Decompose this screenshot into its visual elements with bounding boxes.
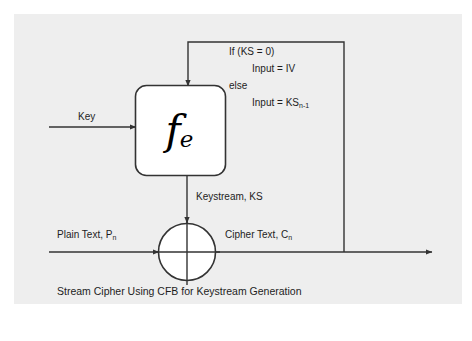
keystream-label: Keystream, KS: [196, 191, 263, 203]
condition-if-line: If (KS = 0): [229, 46, 274, 58]
figure-root: fe Key Keystream, KS Plain Text, Pn Ciph…: [0, 0, 472, 341]
function-subscript: e: [180, 128, 194, 151]
condition-input-iv-line: Input = IV: [252, 63, 295, 75]
condition-else-line: else: [229, 80, 247, 92]
condition-input-ks-text: Input = KS: [252, 97, 299, 108]
figure-caption: Stream Cipher Using CFB for Keystream Ge…: [57, 285, 302, 298]
ciphertext-subscript: n: [288, 234, 292, 241]
plaintext-subscript: n: [112, 234, 116, 241]
function-letter: f: [166, 110, 181, 151]
plaintext-text: Plain Text, P: [57, 229, 112, 240]
condition-input-ks-subscript: n-1: [299, 102, 309, 109]
encryption-function-symbol: fe: [135, 85, 225, 175]
ciphertext-label: Cipher Text, Cn: [225, 229, 292, 242]
key-label: Key: [78, 111, 95, 123]
condition-input-ks-line: Input = KSn-1: [252, 97, 309, 110]
figure-subcaption: [14, 316, 314, 330]
ciphertext-text: Cipher Text, C: [225, 229, 288, 240]
plaintext-label: Plain Text, Pn: [57, 229, 116, 242]
